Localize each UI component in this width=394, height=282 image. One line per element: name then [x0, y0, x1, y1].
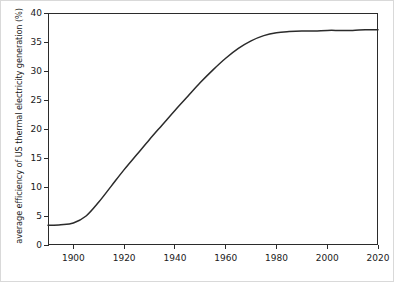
x-tick-label: 1940	[155, 254, 195, 263]
x-tick-label: 2020	[358, 254, 394, 263]
chart-figure: average efficiency of US thermal electri…	[0, 0, 394, 282]
axes	[49, 14, 378, 245]
x-tick-label: 1920	[104, 254, 144, 263]
x-tick-label: 1960	[206, 254, 246, 263]
plot-area	[48, 13, 378, 245]
x-tick-label: 2000	[307, 254, 347, 263]
x-tick-label: 1980	[256, 254, 296, 263]
plot-svg	[48, 13, 378, 245]
x-tick-label: 1900	[53, 254, 93, 263]
axis-frame	[49, 14, 378, 245]
efficiency-curve	[48, 30, 378, 226]
